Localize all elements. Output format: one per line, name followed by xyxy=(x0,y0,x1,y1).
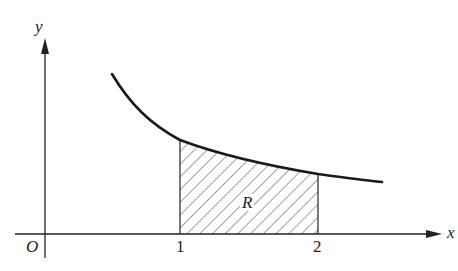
region-r xyxy=(180,130,318,234)
y-axis xyxy=(41,38,49,258)
area-under-curve-diagram: y x O 1 2 R xyxy=(0,0,458,271)
tick-label-2: 2 xyxy=(313,238,322,255)
x-axis-arrow-icon xyxy=(426,230,442,238)
diagram-canvas xyxy=(0,0,458,271)
tick-label-1: 1 xyxy=(176,238,185,255)
origin-label: O xyxy=(26,238,38,255)
y-axis-arrow-icon xyxy=(41,38,49,54)
region-label: R xyxy=(240,194,254,211)
y-axis-label: y xyxy=(35,18,43,35)
x-axis-label: x xyxy=(447,224,455,241)
